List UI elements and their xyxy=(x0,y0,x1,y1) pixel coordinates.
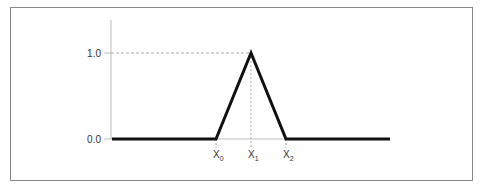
chart: 1.0 0.0 X0 X1 X2 xyxy=(0,0,480,187)
y-label-top: 1.0 xyxy=(87,48,101,59)
chart-frame xyxy=(11,8,473,181)
y-label-bottom: 0.0 xyxy=(87,134,101,145)
